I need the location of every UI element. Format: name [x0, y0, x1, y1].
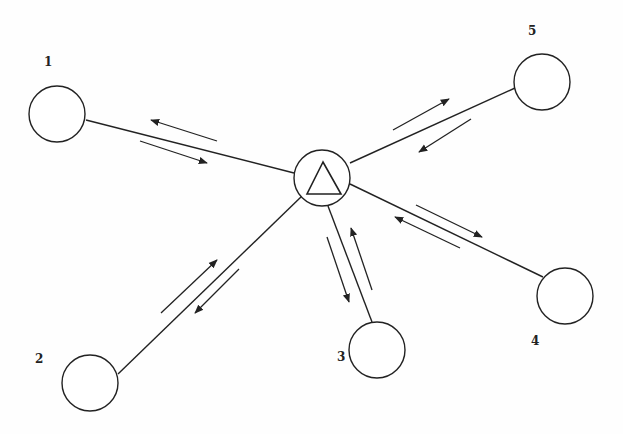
node-2 [62, 355, 118, 411]
star-network-diagram: 12345 [0, 0, 623, 434]
flow-arrows [140, 99, 482, 313]
node-label-5: 5 [528, 24, 536, 38]
arrow-icon [351, 228, 372, 290]
arrow-icon [419, 119, 471, 152]
hub-node [294, 150, 350, 206]
diagram-canvas: 12345 [0, 0, 623, 434]
nodes: 12345 [29, 24, 593, 411]
node-4 [537, 268, 593, 324]
arrow-icon [140, 141, 207, 163]
node-1 [29, 86, 85, 142]
node-5 [514, 54, 570, 110]
link-3 [328, 206, 372, 322]
arrow-icon [151, 120, 217, 141]
arrow-icon [327, 237, 349, 302]
links [86, 88, 543, 374]
node-label-3: 3 [337, 350, 345, 364]
node-label-4: 4 [531, 334, 539, 348]
link-2 [118, 195, 303, 374]
link-4 [350, 184, 543, 277]
link-1 [86, 120, 294, 173]
node-3 [349, 322, 405, 378]
arrow-icon [393, 99, 449, 130]
hub-circle [294, 150, 350, 206]
link-5 [350, 88, 515, 163]
arrow-icon [195, 269, 239, 313]
node-label-1: 1 [44, 55, 52, 69]
node-label-2: 2 [35, 352, 43, 366]
